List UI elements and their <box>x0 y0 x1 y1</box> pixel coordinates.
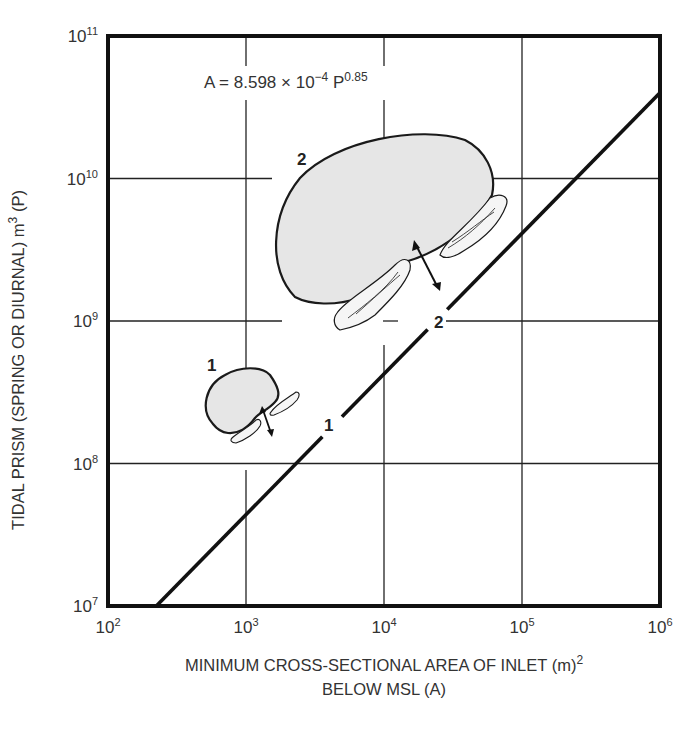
x-axis-label-line1: MINIMUM CROSS-SECTIONAL AREA OF INLET (m… <box>185 653 583 674</box>
formula-lhs: A = 8.598 × 10 <box>204 73 315 92</box>
region-1-arrowhead-bottom <box>267 429 274 437</box>
x-axis-label-line2: BELOW MSL (A) <box>322 680 446 698</box>
y-tick-label: 107 <box>73 595 98 616</box>
region-1-schematic: 1 <box>206 356 299 443</box>
inlet-schematics: 2 1 <box>206 134 507 443</box>
region-2-label: 2 <box>297 150 306 169</box>
chart: 2 1 12 102103104105106 10710810910101011… <box>0 0 700 729</box>
y-axis-label: TIDAL PRISM (SPRING OR DIURNAL) m3 (P) <box>6 190 27 530</box>
formula-exp1: −4 <box>315 70 329 84</box>
x-tick-label: 104 <box>371 616 396 637</box>
series-gap-label-1: 1 <box>324 416 333 435</box>
y-tick-label: 109 <box>73 310 98 331</box>
y-tick-label: 1011 <box>68 25 98 46</box>
x-tick-labels: 102103104105106 <box>95 616 672 637</box>
series-line-segment <box>156 437 322 606</box>
formula-exp2: 0.85 <box>344 70 368 84</box>
formula-annotation: A = 8.598 × 10−4 P0.85 <box>204 70 368 92</box>
x-tick-label: 102 <box>95 616 120 637</box>
x-tick-label: 106 <box>647 616 672 637</box>
y-axis-label-main: TIDAL PRISM (SPRING OR DIURNAL) m <box>9 223 27 530</box>
y-tick-label: 1010 <box>67 168 98 189</box>
series-line-segment <box>342 330 428 417</box>
x-axis-label-main: MINIMUM CROSS-SECTIONAL AREA OF INLET (m… <box>185 656 576 674</box>
x-tick-label: 105 <box>509 616 534 637</box>
region-1-label: 1 <box>207 356 216 375</box>
formula-mid: P <box>328 73 344 92</box>
series-gap-label-2: 2 <box>434 313 443 332</box>
x-axis-label-sup: 2 <box>576 653 583 667</box>
grid <box>108 36 660 606</box>
y-axis-label-end: (P) <box>9 190 27 217</box>
y-tick-label: 108 <box>73 453 98 474</box>
region-2-schematic: 2 <box>276 134 507 330</box>
y-tick-labels: 10710810910101011 <box>67 25 98 616</box>
region-2-arrowhead-bottom <box>432 282 441 291</box>
x-tick-label: 103 <box>233 616 258 637</box>
